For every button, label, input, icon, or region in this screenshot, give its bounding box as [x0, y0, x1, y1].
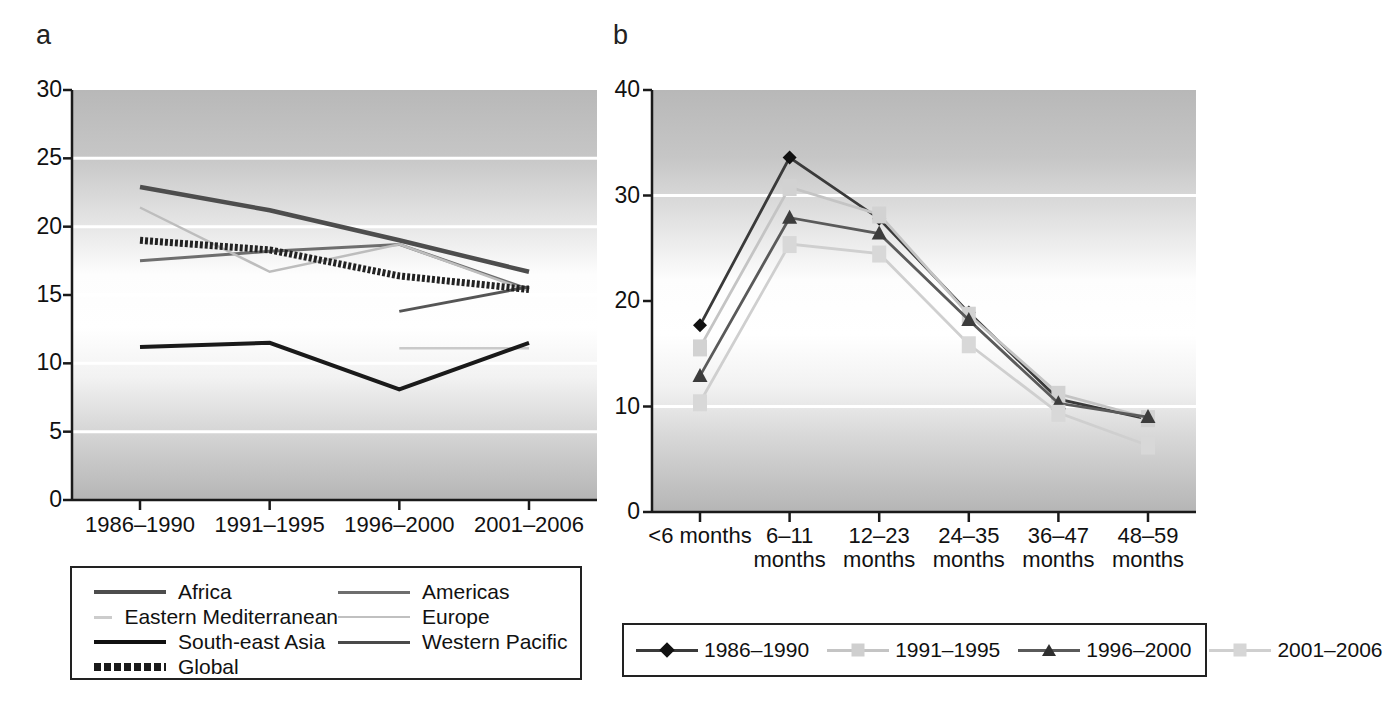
legend-label: 2001–2006	[1277, 638, 1382, 662]
legend-label: 1986–1990	[704, 638, 809, 662]
panel-a-legend: AfricaAmericasEastern MediterraneanEurop…	[70, 566, 582, 680]
legend-line-swatch	[94, 616, 112, 619]
legend-label: South-east Asia	[178, 630, 325, 654]
legend-item-western-pacific: Western Pacific	[338, 630, 582, 654]
legend-item-1986-1990: 1986–1990	[636, 638, 809, 662]
legend-row: 1986–19901991–19951996–20002001–2006	[624, 625, 1205, 675]
legend-marker-square-icon	[827, 641, 889, 659]
legend-item-1996-2000: 1996–2000	[1018, 638, 1191, 662]
legend-line-swatch	[338, 641, 410, 644]
panel-a-x-tick: 2001–2006	[449, 513, 609, 537]
legend-label: 1991–1995	[895, 638, 1000, 662]
legend-item-2001-2006: 2001–2006	[1209, 638, 1382, 662]
legend-marker-triangle-icon	[1018, 641, 1080, 659]
legend-item-americas: Americas	[338, 580, 582, 604]
panel-a-plot	[0, 0, 610, 560]
legend-line-swatch	[94, 590, 166, 594]
legend-label: 1996–2000	[1086, 638, 1191, 662]
legend-label: Europe	[422, 605, 490, 629]
legend-label: Global	[178, 655, 239, 679]
legend-label: Africa	[178, 580, 232, 604]
legend-row: AfricaAmericas	[94, 580, 582, 604]
legend-row: South-east AsiaWestern Pacific	[94, 630, 582, 654]
legend-item-1991-1995: 1991–1995	[827, 638, 1000, 662]
panel-b-x-tick: 48–59months	[1073, 524, 1223, 572]
legend-line-swatch	[94, 663, 166, 671]
legend-line-swatch	[94, 640, 166, 644]
panel-b-plot	[600, 0, 1221, 560]
legend-label: Western Pacific	[422, 630, 568, 654]
legend-line-swatch	[338, 616, 410, 618]
legend-marker-diamond-icon	[636, 641, 698, 659]
legend-marker-square-icon	[1209, 641, 1271, 659]
legend-line-swatch	[338, 591, 410, 594]
legend-item-eastern-mediterranean: Eastern Mediterranean	[94, 605, 338, 629]
legend-item-africa: Africa	[94, 580, 338, 604]
legend-row: Eastern MediterraneanEurope	[94, 605, 582, 629]
legend-row: Global	[94, 655, 582, 679]
legend-label: Americas	[422, 580, 510, 604]
legend-item-south-east-asia: South-east Asia	[94, 630, 338, 654]
legend-item-global: Global	[94, 655, 338, 679]
legend-item-europe: Europe	[338, 605, 582, 629]
legend-label: Eastern Mediterranean	[124, 605, 338, 629]
panel-b-legend: 1986–19901991–19951996–20002001–2006	[622, 623, 1207, 677]
